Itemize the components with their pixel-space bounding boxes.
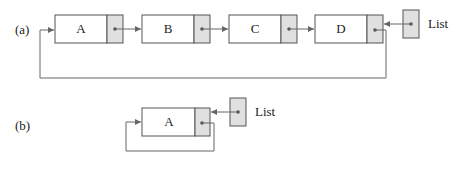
node-d: D xyxy=(315,15,383,43)
node-a-value: A xyxy=(76,21,86,36)
part-a-label: (a) xyxy=(15,22,29,37)
node-d-value: D xyxy=(336,21,345,36)
node-a-b: A xyxy=(142,108,210,136)
node-c-value: C xyxy=(251,21,260,36)
node-a: A xyxy=(55,15,123,43)
node-a-value-b: A xyxy=(164,114,174,129)
circular-linked-list-diagram: (a) A B C D List (b) xyxy=(0,0,461,178)
node-c: C xyxy=(229,15,297,43)
node-b-value: B xyxy=(164,21,173,36)
node-b: B xyxy=(142,15,210,43)
part-b-label: (b) xyxy=(15,118,30,133)
list-label-a: List xyxy=(428,16,449,31)
list-label-b: List xyxy=(255,104,276,119)
